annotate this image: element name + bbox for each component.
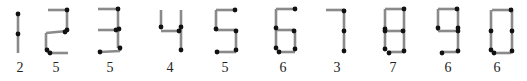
digit-0 (489, 8, 515, 56)
vertex-dot (16, 12, 21, 17)
count-label-2: 5 (46, 60, 66, 76)
digit-6 (274, 7, 298, 55)
count-label-1: 2 (10, 60, 30, 76)
count-label-3: 5 (100, 60, 120, 76)
vertex-dot (214, 27, 219, 32)
vertex-dot (233, 8, 238, 13)
vertex-dot (117, 27, 122, 32)
vertex-dot (293, 7, 298, 12)
vertex-dot (489, 29, 494, 34)
digit-2 (45, 8, 70, 56)
count-label-7: 3 (327, 60, 347, 76)
vertex-dot (274, 46, 279, 51)
vertex-dot (456, 29, 461, 34)
vertex-dot (65, 8, 70, 13)
vertex-dot (116, 7, 121, 12)
vertex-dot (48, 51, 53, 56)
vertex-dot (179, 48, 184, 53)
vertex-dot (436, 26, 441, 31)
vertex-dot (118, 46, 123, 51)
count-label-9: 6 (438, 60, 458, 76)
digit-5 (214, 8, 239, 55)
vertex-dot (510, 29, 515, 34)
vertex-dot (215, 50, 220, 55)
vertex-dot (234, 48, 239, 53)
vertex-dot (177, 29, 182, 34)
vertex-dot (342, 9, 347, 14)
vertex-dot (159, 25, 164, 30)
digit-1 (16, 12, 21, 53)
vertex-dot (292, 29, 297, 34)
digit-8 (383, 7, 407, 56)
vertex-dot (277, 50, 282, 55)
vertex-dot (510, 49, 515, 54)
digit-3 (98, 7, 123, 55)
vertex-dot (509, 8, 514, 13)
digit-9 (436, 7, 461, 56)
vertex-dot (402, 49, 407, 54)
vertex-dot (440, 51, 445, 56)
count-label-0: 6 (487, 60, 507, 76)
vertex-dot (342, 29, 347, 34)
vertex-dot (383, 29, 388, 34)
vertex-dot (234, 29, 239, 34)
vertex-dot (293, 47, 298, 52)
count-label-8: 7 (383, 60, 403, 76)
vertex-dot (63, 30, 68, 35)
digit-7 (326, 9, 346, 54)
vertex-dot (401, 29, 406, 34)
vertex-dot (98, 50, 103, 55)
vertex-dot (402, 7, 407, 12)
vertex-dot (387, 51, 392, 56)
vertex-dot (492, 51, 497, 56)
vertex-dot (456, 49, 461, 54)
vertex-dot (342, 49, 347, 54)
count-label-5: 5 (215, 60, 235, 76)
vertex-dot (16, 32, 21, 37)
vertex-dot (455, 7, 460, 12)
matchstick-digits-figure: 2 5 5 4 5 6 3 7 6 6 (0, 0, 527, 81)
vertex-dot (274, 26, 279, 31)
count-label-6: 6 (273, 60, 293, 76)
segment (100, 51, 120, 52)
count-label-4: 4 (160, 60, 180, 76)
vertex-dot (383, 47, 388, 52)
digit-4 (159, 10, 184, 52)
